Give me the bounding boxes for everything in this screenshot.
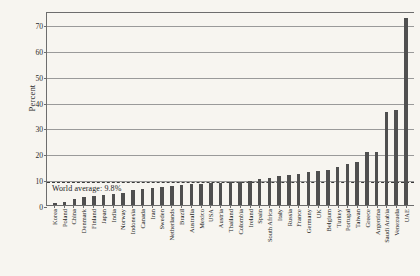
bar-slot [401, 13, 411, 206]
x-tick-label: Poland [60, 209, 67, 227]
bar-slot [89, 13, 99, 206]
x-label-slot: Taiwan [352, 208, 362, 270]
bar-slot [265, 13, 275, 206]
bar [394, 110, 397, 206]
x-tick-mark [230, 205, 231, 208]
bar [219, 183, 222, 206]
bar [297, 174, 300, 206]
bar [326, 170, 329, 206]
x-label-slot: Iran [147, 208, 157, 270]
bar-slot [109, 13, 119, 206]
x-tick-mark [386, 205, 387, 208]
bar-slot [128, 13, 138, 206]
x-tick-mark [259, 205, 260, 208]
x-label-slot: USA [206, 208, 216, 270]
x-label-slot: Italy [274, 208, 284, 270]
x-tick-mark [289, 205, 290, 208]
x-tick-mark [308, 205, 309, 208]
x-tick-mark [181, 205, 182, 208]
x-label-slot: Mexico [196, 208, 206, 270]
x-tick-mark [240, 205, 241, 208]
bar [258, 179, 261, 206]
x-tick-label: Mexico [197, 209, 204, 229]
x-label-slot: France [294, 208, 304, 270]
y-tick-label: 60 [35, 47, 43, 56]
x-tick-label: South Africa [266, 209, 273, 242]
x-label-slot: Russia [284, 208, 294, 270]
x-tick-label: Norway [119, 209, 126, 230]
x-tick-label: Finland [90, 209, 97, 229]
x-label-slot: South Africa [264, 208, 274, 270]
bar-slot [157, 13, 167, 206]
bar-slot [362, 13, 372, 206]
x-label-slot: Korea [49, 208, 59, 270]
bar [238, 182, 241, 206]
bar [346, 164, 349, 206]
x-label-slot: India [108, 208, 118, 270]
bar [404, 18, 407, 206]
bar-slot [274, 13, 284, 206]
x-tick-label: Germany [305, 209, 312, 233]
x-axis-labels: KoreaPolandChinaDenmarkFinlandJapanIndia… [46, 208, 414, 270]
x-tick-mark [83, 205, 84, 208]
x-tick-mark [318, 205, 319, 208]
bar-slot [391, 13, 401, 206]
bar-slot [60, 13, 70, 206]
bar [160, 187, 163, 206]
y-tick-label: 40 [35, 99, 43, 108]
x-label-slot: Germany [303, 208, 313, 270]
bar [336, 167, 339, 206]
x-label-slot: Portugal [342, 208, 352, 270]
x-tick-mark [220, 205, 221, 208]
x-label-slot: Brazil [176, 208, 186, 270]
bar-slot [226, 13, 236, 206]
x-tick-mark [210, 205, 211, 208]
bar-slot [70, 13, 80, 206]
bar-slot [304, 13, 314, 206]
x-tick-mark [367, 205, 368, 208]
x-tick-mark [93, 205, 94, 208]
x-tick-label: Indonesia [129, 209, 136, 234]
bar [365, 152, 368, 206]
bar-slot [167, 13, 177, 206]
x-tick-mark [377, 205, 378, 208]
x-label-slot: Thailand [225, 208, 235, 270]
x-label-slot: China [69, 208, 79, 270]
x-tick-label: Taiwan [354, 209, 361, 228]
bar-slot [284, 13, 294, 206]
x-label-slot: Poland [59, 208, 69, 270]
bar-slot [255, 13, 265, 206]
x-label-slot: Sweden [157, 208, 167, 270]
x-tick-label: Thailand [226, 209, 233, 232]
x-label-slot: Saudi Arabia [382, 208, 392, 270]
x-tick-mark [122, 205, 123, 208]
x-tick-mark [201, 205, 202, 208]
x-label-slot: Austria [215, 208, 225, 270]
bar [170, 186, 173, 206]
x-tick-label: Denmark [80, 209, 87, 233]
bar-slot [382, 13, 392, 206]
bar-slot [343, 13, 353, 206]
x-tick-mark [132, 205, 133, 208]
bar-slot [138, 13, 148, 206]
bar [268, 178, 271, 206]
x-tick-mark [406, 205, 407, 208]
x-tick-mark [347, 205, 348, 208]
x-label-slot: Japan [98, 208, 108, 270]
y-tick-label: 30 [35, 125, 43, 134]
x-tick-label: Korea [50, 209, 57, 225]
x-tick-label: Saudi Arabia [383, 209, 390, 243]
x-tick-label: Colombia [236, 209, 243, 235]
bars-layer [47, 13, 414, 206]
x-tick-label: Sweden [158, 209, 165, 230]
x-tick-label: India [109, 209, 116, 222]
x-tick-label: Netherlands [168, 209, 175, 240]
x-tick-mark [396, 205, 397, 208]
x-label-slot: Belgium [323, 208, 333, 270]
plot-area: 010203040506070 World average: 9.8% [46, 12, 414, 206]
bar-slot [216, 13, 226, 206]
x-label-slot: UK [313, 208, 323, 270]
bar-slot [313, 13, 323, 206]
bar-slot [196, 13, 206, 206]
x-tick-mark [191, 205, 192, 208]
